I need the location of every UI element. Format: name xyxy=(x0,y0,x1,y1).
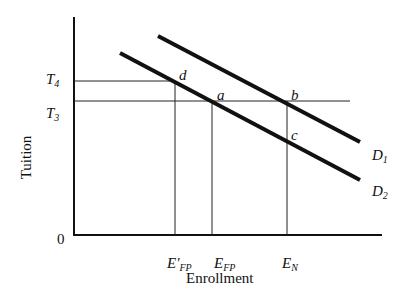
en-sub: N xyxy=(291,262,298,273)
t4-sub: 4 xyxy=(54,78,59,89)
point-b-label: b xyxy=(291,88,299,103)
point-c-label: c xyxy=(291,128,298,143)
y-axis-title: Tuition xyxy=(19,128,34,188)
d2-curve xyxy=(120,53,360,180)
en-label: EN xyxy=(282,256,298,273)
d1-main: D xyxy=(372,147,383,163)
point-d-label: d xyxy=(179,68,187,83)
en-main: E xyxy=(282,255,291,271)
point-a-label: a xyxy=(217,88,225,103)
d1-sub: 1 xyxy=(383,154,388,165)
t3-sub: 3 xyxy=(54,112,59,123)
x-axis-title: Enrollment xyxy=(186,271,254,286)
d2-sub: 2 xyxy=(383,190,388,201)
efp-main: E xyxy=(214,255,223,271)
d1-label: D1 xyxy=(372,148,388,165)
t4-label: T4 xyxy=(46,72,59,89)
t3-label: T3 xyxy=(46,106,59,123)
efp-prime-main: E′ xyxy=(167,255,179,271)
origin-label: 0 xyxy=(57,232,65,247)
diagram-canvas xyxy=(0,0,402,299)
d2-label: D2 xyxy=(372,184,388,201)
d2-main: D xyxy=(372,183,383,199)
